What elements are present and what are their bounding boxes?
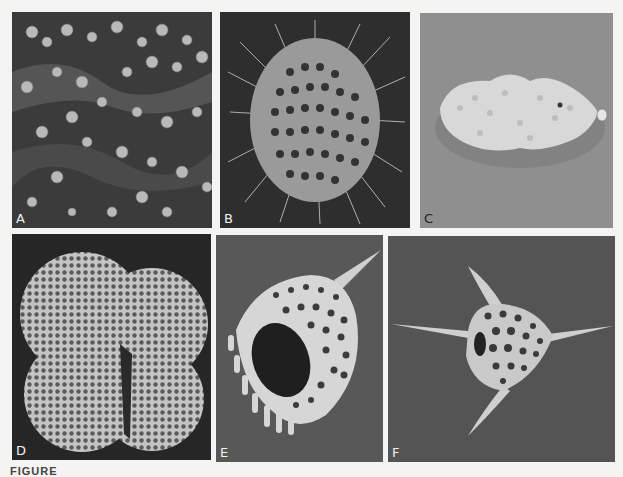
panel-label: A: [16, 212, 25, 225]
figure-caption: FIGURE: [10, 465, 58, 477]
panel-a: A: [12, 12, 212, 228]
triradiate-radiolarian-image: [388, 236, 615, 462]
panel-label: B: [224, 212, 233, 225]
panel-label: E: [220, 446, 228, 459]
agglutinated-foraminifer-image: [420, 13, 613, 228]
spiny-radiolarian-image: [220, 12, 410, 228]
panel-d: D: [12, 234, 211, 460]
microfossil-cluster-image: [12, 12, 212, 228]
panel-label: F: [392, 446, 399, 459]
panel-label: C: [424, 212, 433, 225]
panel-b: B: [220, 12, 410, 228]
panel-c: C: [420, 13, 613, 228]
panel-f: F: [388, 236, 615, 462]
nassellarian-radiolarian-image: [216, 235, 383, 462]
panel-e: E: [216, 235, 383, 462]
globigerinid-foraminifer-image: [12, 234, 211, 460]
panel-label: D: [16, 444, 26, 457]
